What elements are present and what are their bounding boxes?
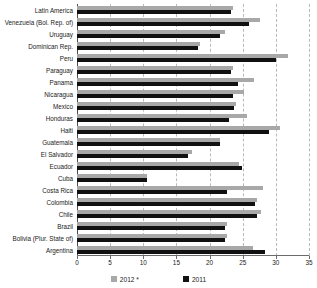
category-label: Honduras [46,115,73,122]
bar-2011 [77,118,229,122]
bar-2011 [77,202,255,206]
bar-row [77,150,309,162]
category-label: Chile [59,211,73,218]
bar-row [77,102,309,114]
category-label: Peru [60,55,73,62]
bar-row [77,162,309,174]
bar-2012 [77,6,233,10]
legend-swatch-2012 [111,276,117,282]
category-label: Costa Rica [42,187,73,194]
bar-2012 [77,234,227,238]
bar-2012 [77,66,233,70]
bar-2012 [77,246,253,250]
bar-row [77,174,309,186]
x-tick-label: 30 [272,259,279,266]
bar-2011 [77,178,147,182]
bar-2011 [77,214,257,218]
bar-2012 [77,54,288,58]
category-label: Brazil [57,223,73,230]
bar-row [77,186,309,198]
bar-2011 [77,142,220,146]
bar-2012 [77,102,236,106]
category-label: Paraguay [46,67,73,74]
legend-entry[interactable]: 2012 * [111,276,139,283]
bar-2012 [77,42,200,46]
category-label: Panama [50,79,73,86]
bar-2011 [77,154,188,158]
gridline-35 [309,4,310,256]
bar-2012 [77,138,220,142]
bar-2011 [77,34,220,38]
x-tick-label: 15 [173,259,180,266]
bar-2012 [77,186,263,190]
bar-2012 [77,174,147,178]
bar-2011 [77,46,198,50]
bar-row [77,66,309,78]
bar-row [77,30,309,42]
bar-row [77,198,309,210]
legend-swatch-2011 [183,276,189,282]
category-label: Colombia [46,199,73,206]
category-label: Uruguay [49,31,73,38]
bar-row [77,126,309,138]
bar-2011 [77,238,225,242]
bar-2011 [77,94,233,98]
legend-label: 2012 * [120,276,139,283]
bar-row [77,222,309,234]
bar-2011 [77,226,225,230]
bar-2011 [77,166,242,170]
bar-2012 [77,210,261,214]
category-label: Guatemala [42,139,73,146]
bar-2012 [77,90,244,94]
bar-2011 [77,70,231,74]
x-tick-label: 35 [305,259,312,266]
bar-2011 [77,250,265,254]
bar-2012 [77,30,225,34]
bar-row [77,114,309,126]
x-tick-label: 0 [75,259,79,266]
bar-2011 [77,130,269,134]
bar-row [77,90,309,102]
category-label: Cuba [58,175,73,182]
category-label: Latin America [35,7,73,14]
x-axis: 05101520253035 [77,256,309,270]
category-label: Bolivia (Plur. State of) [12,235,73,242]
bar-row [77,210,309,222]
bar-row [77,42,309,54]
category-label: Dominican Rep. [28,43,73,50]
x-tick-label: 25 [239,259,246,266]
bar-2012 [77,162,239,166]
bar-2011 [77,10,231,14]
bar-2012 [77,18,260,22]
chart-legend: 2012 *2011 [0,272,317,286]
bar-row [77,78,309,90]
bar-2011 [77,82,238,86]
bar-2011 [77,190,227,194]
bar-2012 [77,78,254,82]
bar-2012 [77,150,192,154]
x-tick-label: 20 [206,259,213,266]
legend-label: 2011 [192,276,206,283]
bar-2012 [77,126,280,130]
category-label: El Salvador [41,151,73,158]
bar-row [77,234,309,246]
category-label: Argentina [46,247,73,254]
category-label: Venezuela (Bol. Rep. of) [5,19,73,26]
bar-2012 [77,198,257,202]
category-label: Nicaragua [44,91,73,98]
bar-2012 [77,114,247,118]
plot-area [77,4,309,256]
bar-chart: Latin AmericaVenezuela (Bol. Rep. of)Uru… [0,0,317,288]
bar-2011 [77,106,234,110]
bar-row [77,54,309,66]
bar-2011 [77,22,249,26]
bar-row [77,18,309,30]
legend-entry[interactable]: 2011 [183,276,206,283]
category-label: Mexico [53,103,73,110]
category-label: Ecuador [50,163,73,170]
category-label: Haiti [60,127,73,134]
bar-2011 [77,58,276,62]
category-axis-labels: Latin AmericaVenezuela (Bol. Rep. of)Uru… [0,4,76,256]
bar-row [77,6,309,18]
x-tick-label: 5 [108,259,112,266]
